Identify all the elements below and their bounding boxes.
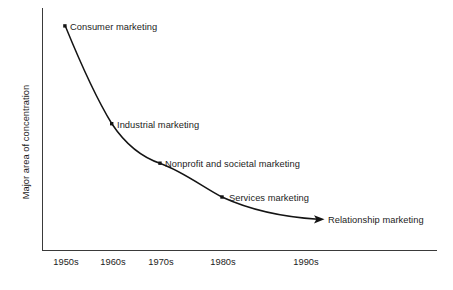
y-axis-title: Major area of concentration — [21, 85, 31, 200]
x-tick-label-1960s: 1960s — [100, 257, 126, 267]
point-label-consumer-marketing: Consumer marketing — [70, 22, 157, 32]
x-tick-label-1950s: 1950s — [53, 257, 79, 267]
point-label-industrial-marketing: Industrial marketing — [117, 120, 199, 130]
chart-container: Major area of concentration Consumer mar… — [0, 0, 453, 290]
point-label-relationship-marketing: Relationship marketing — [328, 215, 424, 225]
x-tick-label-1980s: 1980s — [210, 257, 236, 267]
x-tick-label-1970s: 1970s — [148, 257, 174, 267]
data-point-marker — [110, 122, 113, 125]
data-point-marker — [63, 24, 66, 27]
chart-canvas: Major area of concentration Consumer mar… — [0, 0, 453, 290]
data-point-marker — [220, 195, 223, 198]
point-label-nonprofit-societal-marketing: Nonprofit and societal marketing — [165, 159, 300, 169]
x-tick-label-1990s: 1990s — [293, 257, 319, 267]
data-point-marker — [158, 162, 161, 165]
point-label-services-marketing: Services marketing — [229, 193, 309, 203]
